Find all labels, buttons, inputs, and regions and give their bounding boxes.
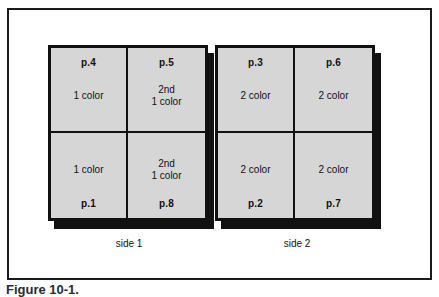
color-spec-label: 1 color: [73, 164, 103, 176]
color-spec-label: 2 color: [318, 164, 348, 176]
page-cell-p5: p.5 2nd 1 color: [128, 48, 205, 133]
page-number-label: p.8: [128, 198, 205, 209]
page-number-label: p.1: [51, 198, 126, 209]
page-number-label: p.6: [295, 57, 372, 68]
page-number-label: p.3: [218, 57, 293, 68]
sheet-group-side-1: p.4 1 color p.5 2nd 1 color 1 color p.1 …: [48, 45, 208, 221]
color-spec-label: 2nd 1 color: [151, 84, 181, 108]
color-spec-label: 1 color: [73, 90, 103, 102]
color-spec-label: 2 color: [240, 90, 270, 102]
color-spec-label: 2 color: [318, 90, 348, 102]
sheet-grid-side-1: p.4 1 color p.5 2nd 1 color 1 color p.1 …: [48, 45, 208, 221]
sheet-group-side-2: p.3 2 color p.6 2 color 2 color p.2 2 co…: [215, 45, 375, 221]
page-cell-p3: p.3 2 color: [218, 48, 295, 133]
page-number-label: p.7: [295, 198, 372, 209]
page-cell-p7: 2 color p.7: [295, 133, 372, 218]
page-number-label: p.2: [218, 198, 293, 209]
page-cell-p4: p.4 1 color: [51, 48, 128, 133]
page-number-label: p.4: [51, 57, 126, 68]
figure-caption: Figure 10-1.: [6, 282, 79, 297]
page-cell-p8: 2nd 1 color p.8: [128, 133, 205, 218]
page-number-label: p.5: [128, 57, 205, 68]
color-spec-label: 2nd 1 color: [151, 158, 181, 182]
page-cell-p1: 1 color p.1: [51, 133, 128, 218]
page-cell-p6: p.6 2 color: [295, 48, 372, 133]
sheet-grid-side-2: p.3 2 color p.6 2 color 2 color p.2 2 co…: [215, 45, 375, 221]
side-1-caption: side 1: [44, 238, 214, 249]
page-cell-p2: 2 color p.2: [218, 133, 295, 218]
side-2-caption: side 2: [212, 238, 382, 249]
color-spec-label: 2 color: [240, 164, 270, 176]
